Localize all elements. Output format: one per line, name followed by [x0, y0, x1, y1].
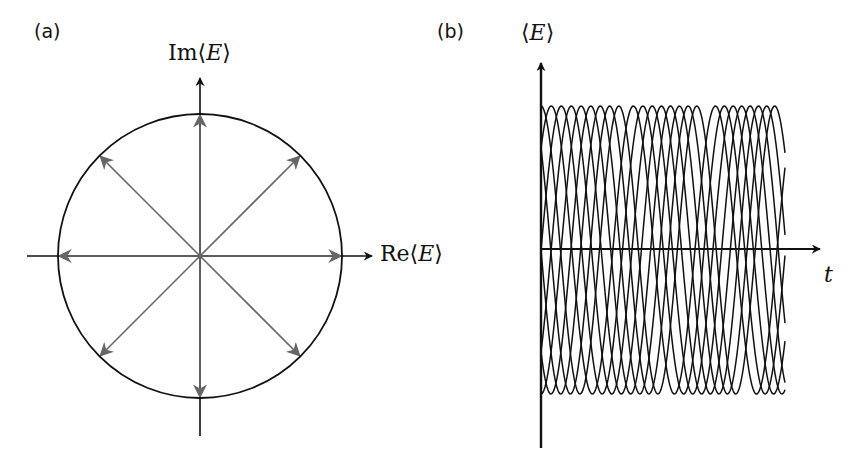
- phasor-arrow: [200, 156, 300, 256]
- phasor-arrow: [200, 256, 300, 356]
- figure-canvas: [0, 0, 859, 470]
- oscillation-plot: [541, 63, 820, 448]
- phasor-arrows: [59, 115, 341, 397]
- phasor-arrow: [100, 256, 200, 356]
- phasor-diagram: [27, 78, 372, 436]
- phasor-arrow: [100, 156, 200, 256]
